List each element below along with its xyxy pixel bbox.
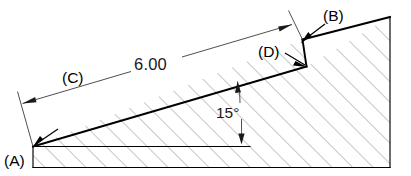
balloon-a-label: (A) [4,152,25,169]
balloon-c-label: (C) [62,69,84,86]
technical-drawing-canvas: 6.00 15° (A) (B) (C) [0,0,411,176]
angle-dimension-value: 15° [216,104,239,121]
section-hatching [0,0,411,176]
dimension-arrow-left [23,97,37,104]
balloon-c: (C) [62,69,84,86]
length-dimension-value: 6.00 [134,55,167,73]
balloon-d-label: (D) [258,43,280,60]
wedge-section-drawing: 6.00 15° (A) (B) (C) [0,0,411,176]
part-body [0,0,411,176]
dimension-arrow-right [278,25,292,32]
balloon-b-label: (B) [323,7,344,24]
